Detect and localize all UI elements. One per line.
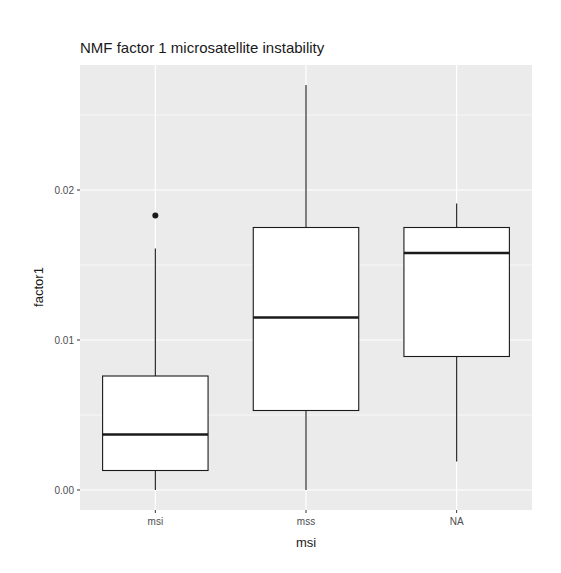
chart-title: NMF factor 1 microsatellite instability	[80, 39, 325, 56]
y-tick-label: 0.01	[55, 335, 75, 346]
outlier-point	[152, 213, 158, 219]
y-axis: 0.000.010.02	[55, 185, 80, 496]
iqr-box	[103, 376, 208, 471]
x-tick-label: NA	[450, 516, 464, 527]
x-tick-label: mss	[297, 516, 315, 527]
y-axis-title: factor1	[31, 267, 46, 307]
x-axis: msimssNA	[148, 510, 464, 527]
iqr-box	[404, 228, 509, 357]
y-tick-label: 0.02	[55, 185, 75, 196]
iqr-box	[253, 228, 358, 411]
boxplot-chart: NMF factor 1 microsatellite instability …	[0, 0, 561, 573]
y-tick-label: 0.00	[55, 485, 75, 496]
x-axis-title: msi	[296, 535, 316, 550]
x-tick-label: msi	[148, 516, 164, 527]
